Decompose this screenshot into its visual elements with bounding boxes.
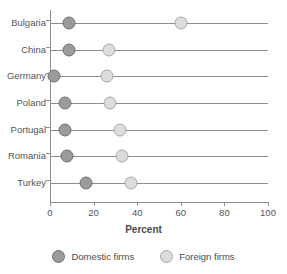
data-point-domestic	[62, 17, 75, 30]
x-axis-tick	[268, 202, 269, 206]
y-axis-tick	[46, 180, 50, 181]
y-axis-label-germany: Germany	[7, 72, 46, 82]
y-axis-tick	[46, 127, 50, 128]
legend-marker-icon	[160, 250, 173, 263]
y-axis-label-china: China	[21, 45, 46, 55]
y-axis-tick	[46, 20, 50, 21]
legend-item-foreign: Foreign firms	[160, 250, 234, 263]
x-axis-line	[50, 202, 268, 203]
x-axis-title: Percent	[0, 224, 287, 235]
x-axis-tick-label: 40	[132, 208, 143, 218]
row-baseline	[50, 156, 268, 157]
data-point-foreign	[115, 150, 128, 163]
data-point-foreign	[124, 176, 137, 189]
x-axis-tick-label: 80	[219, 208, 230, 218]
data-point-domestic	[48, 70, 61, 83]
x-axis-tick	[224, 202, 225, 206]
row-baseline	[50, 23, 268, 24]
data-point-foreign	[100, 70, 113, 83]
data-point-foreign	[102, 43, 115, 56]
row-baseline	[50, 76, 268, 77]
y-axis-label-portugal: Portugal	[11, 125, 46, 135]
data-point-foreign	[174, 17, 187, 30]
legend-marker-icon	[52, 250, 65, 263]
data-point-foreign	[103, 97, 116, 110]
x-axis-tick	[94, 202, 95, 206]
y-axis-tick	[46, 153, 50, 154]
y-axis-label-poland: Poland	[16, 98, 46, 108]
y-axis-label-turkey: Turkey	[17, 178, 46, 188]
row-baseline	[50, 103, 268, 104]
chart-legend: Domestic firmsForeign firms	[0, 250, 287, 263]
x-axis-tick-label: 0	[47, 208, 52, 218]
row-baseline	[50, 50, 268, 51]
plot-area	[50, 10, 268, 196]
data-point-domestic	[59, 123, 72, 136]
y-axis-category-labels: BulgariaChinaGermanyPolandPortugalRomani…	[0, 10, 46, 196]
x-axis-tick	[137, 202, 138, 206]
x-axis-tick-label: 100	[260, 208, 276, 218]
data-point-domestic	[59, 97, 72, 110]
y-axis-tick	[46, 47, 50, 48]
x-axis-tick	[50, 202, 51, 206]
y-axis-label-romania: Romania	[8, 151, 46, 161]
data-point-domestic	[79, 176, 92, 189]
row-baseline	[50, 130, 268, 131]
data-point-domestic	[62, 43, 75, 56]
x-axis-tick-label: 60	[176, 208, 187, 218]
dot-plot-chart: BulgariaChinaGermanyPolandPortugalRomani…	[0, 0, 287, 274]
legend-label: Foreign firms	[179, 252, 234, 262]
legend-label: Domestic firms	[71, 252, 134, 262]
data-point-foreign	[113, 123, 126, 136]
legend-item-domestic: Domestic firms	[52, 250, 134, 263]
x-axis-tick	[181, 202, 182, 206]
y-axis-label-bulgaria: Bulgaria	[11, 19, 46, 29]
y-axis-tick	[46, 100, 50, 101]
x-axis-tick-label: 20	[88, 208, 99, 218]
data-point-domestic	[61, 150, 74, 163]
